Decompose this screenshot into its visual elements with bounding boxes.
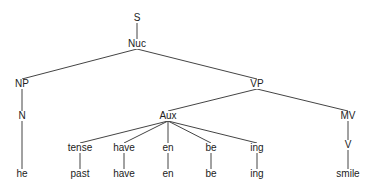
- node-en2: en: [161, 169, 174, 179]
- edge-VP-Aux: [168, 89, 257, 111]
- node-en1: en: [161, 143, 174, 153]
- node-Aux: Aux: [158, 111, 177, 121]
- edge-VP-MV: [257, 89, 348, 111]
- node-NP: NP: [14, 79, 30, 89]
- edge-Aux-ing1: [168, 121, 257, 143]
- node-be1: be: [204, 143, 217, 153]
- tree-edges: [0, 0, 373, 194]
- node-VP: VP: [249, 79, 264, 89]
- node-have2: have: [112, 169, 136, 179]
- node-ing1: ing: [249, 143, 264, 153]
- edge-Aux-have1: [124, 121, 168, 143]
- node-N: N: [17, 111, 26, 121]
- node-past: past: [70, 169, 91, 179]
- edge-Aux-be1: [168, 121, 211, 143]
- node-be2: be: [204, 169, 217, 179]
- node-V: V: [344, 140, 353, 150]
- node-he: he: [15, 169, 28, 179]
- node-have1: have: [112, 143, 136, 153]
- edge-Aux-tense: [80, 121, 168, 143]
- node-Nuc: Nuc: [127, 39, 147, 49]
- node-smile: smile: [335, 169, 360, 179]
- node-MV: MV: [340, 111, 357, 121]
- edge-Nuc-NP: [22, 49, 137, 79]
- node-tense: tense: [67, 143, 93, 153]
- node-ing2: ing: [249, 169, 264, 179]
- node-S: S: [133, 13, 142, 23]
- edge-Nuc-VP: [137, 49, 257, 79]
